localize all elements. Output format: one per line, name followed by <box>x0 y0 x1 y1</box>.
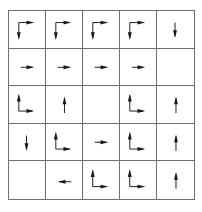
arrow-right-icon <box>120 49 156 86</box>
grid-cell <box>120 49 157 87</box>
grid-cell <box>157 49 194 87</box>
grid-cell <box>9 49 46 87</box>
policy-grid <box>8 10 195 200</box>
grid-cell <box>83 86 120 124</box>
arrow-up-icon <box>157 161 194 199</box>
grid-cell <box>120 11 157 49</box>
arrow-right-icon <box>9 49 45 86</box>
arrow-up-right-icon <box>9 86 45 123</box>
grid-cell <box>157 86 194 124</box>
arrow-up-right-icon <box>83 161 119 199</box>
grid-cell <box>157 11 194 49</box>
arrow-up-right-icon <box>120 86 156 123</box>
arrow-up-icon <box>157 124 194 161</box>
grid-cell <box>83 49 120 87</box>
arrow-up-icon <box>157 86 194 123</box>
grid-cell <box>46 49 83 87</box>
arrow-down-icon <box>157 11 194 48</box>
grid-cell <box>120 124 157 162</box>
grid-cell <box>157 161 194 199</box>
grid-cell <box>9 86 46 124</box>
arrow-down-right-icon <box>120 11 156 48</box>
grid-cell <box>46 161 83 199</box>
arrow-up-right-icon <box>46 124 82 161</box>
grid-cell <box>9 161 46 199</box>
grid-cell <box>120 161 157 199</box>
grid-cell <box>46 11 83 49</box>
grid-cell <box>9 11 46 49</box>
arrow-right-icon <box>46 49 82 86</box>
arrow-down-icon <box>9 124 45 161</box>
arrow-down-right-icon <box>83 11 119 48</box>
arrow-right-icon <box>83 49 119 86</box>
grid-cell <box>83 124 120 162</box>
arrow-up-icon <box>46 86 82 123</box>
arrow-down-right-icon <box>9 11 45 48</box>
arrow-up-right-icon <box>120 161 156 199</box>
arrow-right-icon <box>83 124 119 161</box>
grid-cell <box>83 161 120 199</box>
grid-cell <box>9 124 46 162</box>
arrow-up-right-icon <box>120 124 156 161</box>
grid-cell <box>46 124 83 162</box>
arrow-left-icon <box>46 161 82 199</box>
grid-cell <box>83 11 120 49</box>
grid-cell <box>157 124 194 162</box>
grid-cell <box>46 86 83 124</box>
arrow-down-right-icon <box>46 11 82 48</box>
grid-cell <box>120 86 157 124</box>
